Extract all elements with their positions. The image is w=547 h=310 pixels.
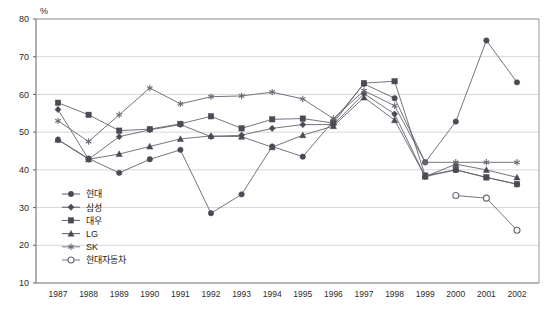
data-point-marker xyxy=(392,103,398,109)
data-point-marker xyxy=(147,126,152,131)
legend-label: 삼성 xyxy=(86,203,102,213)
data-point-marker xyxy=(117,170,122,175)
x-tick-label: 1990 xyxy=(140,289,159,299)
x-tick-label: 1994 xyxy=(263,289,282,299)
legend-item-4[interactable]: LG xyxy=(62,229,98,239)
data-point-marker xyxy=(208,114,213,119)
chart-canvas: 1020304050607080 19871988198919901991199… xyxy=(0,0,547,310)
x-tick-label: 1989 xyxy=(110,289,129,299)
line-chart: 1020304050607080 19871988198919901991199… xyxy=(0,0,547,310)
x-tick-label: 1997 xyxy=(355,289,374,299)
y-tick-label: 30 xyxy=(19,203,29,213)
legend-label: SK xyxy=(86,242,98,252)
data-point-marker xyxy=(453,193,459,199)
data-point-marker xyxy=(55,100,60,105)
series-6 xyxy=(453,193,520,234)
data-point-marker xyxy=(483,195,489,201)
data-point-marker xyxy=(270,117,275,122)
data-point-marker xyxy=(300,154,305,159)
data-point-marker xyxy=(55,118,61,124)
data-point-marker xyxy=(116,133,122,139)
data-point-marker xyxy=(147,157,152,162)
legend-label: LG xyxy=(86,229,98,239)
data-point-marker xyxy=(300,116,305,121)
x-tick-label: 2001 xyxy=(477,289,496,299)
data-point-marker xyxy=(514,80,519,85)
legend-label: 현대자동차 xyxy=(86,254,127,265)
data-point-marker xyxy=(300,121,306,127)
data-point-marker xyxy=(361,80,366,85)
legend-item-6[interactable]: 현대자동차 xyxy=(62,254,127,265)
x-tick-label: 1999 xyxy=(416,289,435,299)
data-point-marker xyxy=(117,128,122,133)
data-point-marker xyxy=(453,167,458,172)
series-layer xyxy=(55,38,520,233)
data-point-marker xyxy=(86,112,91,117)
x-tick-label: 1992 xyxy=(202,289,221,299)
data-point-marker xyxy=(269,125,275,131)
data-point-marker xyxy=(178,121,183,126)
x-tick-label: 2000 xyxy=(446,289,465,299)
series-2 xyxy=(55,90,520,187)
data-point-marker xyxy=(392,96,397,101)
data-point-marker xyxy=(514,181,519,186)
data-point-marker xyxy=(55,106,61,112)
y-tick-label: 80 xyxy=(19,14,29,24)
x-axis-ticks: 1987198819891990199119921993199419951996… xyxy=(49,289,527,299)
data-point-marker xyxy=(484,175,489,180)
data-point-marker xyxy=(484,38,489,43)
series-line xyxy=(58,81,517,184)
legend-label: 현대 xyxy=(86,189,102,199)
gridlines-group xyxy=(36,19,539,245)
series-line xyxy=(58,97,517,177)
data-point-marker xyxy=(392,79,397,84)
legend-label: 대우 xyxy=(86,216,102,226)
x-tick-label: 1998 xyxy=(385,289,404,299)
plot-frame xyxy=(36,19,539,283)
series-5 xyxy=(55,85,520,166)
x-tick-label: 1991 xyxy=(171,289,190,299)
y-tick-label: 20 xyxy=(19,240,29,250)
y-tick-label: 10 xyxy=(19,278,29,288)
data-point-marker xyxy=(208,211,213,216)
series-4 xyxy=(55,94,520,180)
data-point-marker xyxy=(392,111,398,117)
y-axis-unit-label: % xyxy=(40,6,48,16)
legend-marker-icon xyxy=(68,218,73,223)
data-point-marker xyxy=(239,126,244,131)
x-tick-label: 1995 xyxy=(293,289,312,299)
y-tick-label: 70 xyxy=(19,52,29,62)
data-point-marker xyxy=(178,101,184,107)
data-point-marker xyxy=(514,227,520,233)
y-tick-label: 50 xyxy=(19,127,29,137)
legend-marker-icon xyxy=(68,204,74,210)
data-point-marker xyxy=(239,192,244,197)
legend-marker-icon xyxy=(68,191,73,196)
chart-legend: 현대삼성대우LGSK현대자동차 xyxy=(62,189,127,265)
data-point-marker xyxy=(178,147,183,152)
y-tick-label: 60 xyxy=(19,90,29,100)
legend-item-1[interactable]: 현대 xyxy=(62,189,102,199)
legend-marker-icon xyxy=(68,257,74,263)
x-tick-label: 1996 xyxy=(324,289,343,299)
x-tick-label: 2002 xyxy=(508,289,527,299)
series-line xyxy=(58,94,517,185)
data-point-marker xyxy=(453,119,458,124)
legend-item-5[interactable]: SK xyxy=(62,242,98,252)
y-tick-label: 40 xyxy=(19,165,29,175)
legend-item-3[interactable]: 대우 xyxy=(62,216,102,226)
x-tick-label: 1993 xyxy=(232,289,251,299)
y-axis-ticks: 1020304050607080 xyxy=(19,14,36,288)
x-tick-label: 1987 xyxy=(49,289,68,299)
x-tick-label: 1988 xyxy=(79,289,98,299)
